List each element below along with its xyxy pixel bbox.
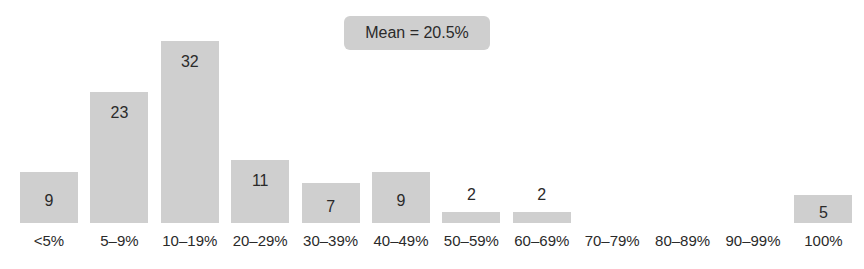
bar-value-label: 2 xyxy=(513,186,571,204)
bar-value-label: 9 xyxy=(372,192,430,210)
x-axis-tick-label: 100% xyxy=(788,232,858,249)
bar-value-label: 5 xyxy=(794,204,852,222)
bar xyxy=(442,212,500,223)
mean-annotation: Mean = 20.5% xyxy=(344,16,490,50)
bar-value-label: 23 xyxy=(90,104,148,122)
bar-value-label: 9 xyxy=(20,192,78,210)
x-axis-tick-label: 60–69% xyxy=(507,232,577,249)
x-axis-tick-label: 20–29% xyxy=(225,232,295,249)
x-axis-tick-label: 30–39% xyxy=(296,232,366,249)
x-axis-tick-label: 70–79% xyxy=(577,232,647,249)
bar xyxy=(513,212,571,223)
x-axis-tick-label: 10–19% xyxy=(155,232,225,249)
x-axis-tick-label: 40–49% xyxy=(366,232,436,249)
bar xyxy=(231,160,289,223)
bar-value-label: 7 xyxy=(302,198,360,216)
x-axis-tick-label: 80–89% xyxy=(648,232,718,249)
bar-value-label: 2 xyxy=(442,186,500,204)
x-axis-tick-label: 5–9% xyxy=(84,232,154,249)
x-axis-tick-label: <5% xyxy=(14,232,84,249)
x-axis-tick-label: 90–99% xyxy=(718,232,788,249)
x-axis-tick-label: 50–59% xyxy=(436,232,506,249)
bar-value-label: 32 xyxy=(161,53,219,71)
bar-value-label: 11 xyxy=(231,172,289,190)
